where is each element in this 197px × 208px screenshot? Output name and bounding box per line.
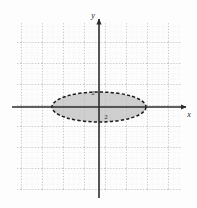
plot-canvas: x y 2 2: [0, 0, 197, 208]
y-axis-label: y: [90, 11, 95, 20]
x-axis-label: x: [186, 110, 191, 119]
semi-minor-label: 2: [91, 89, 95, 97]
coordinate-plane-figure: x y 2 2: [0, 0, 197, 208]
semi-major-label: 2: [104, 113, 108, 121]
